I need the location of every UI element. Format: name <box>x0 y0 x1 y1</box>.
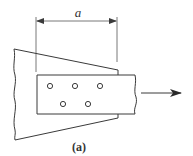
bolt-hole <box>97 83 102 88</box>
figure-label: (a) <box>72 140 86 154</box>
bolt-hole <box>47 83 52 88</box>
bolt-hole <box>72 83 77 88</box>
bolt-hole <box>85 101 90 106</box>
bolt-holes <box>47 83 102 106</box>
break-line-right <box>135 75 137 114</box>
break-line-left <box>14 49 16 140</box>
bolt-hole <box>60 101 65 106</box>
gusset-plate <box>14 49 118 140</box>
dimension-label: a <box>75 5 82 20</box>
connection-diagram: a (a) <box>0 0 193 156</box>
member-plate <box>37 75 136 114</box>
